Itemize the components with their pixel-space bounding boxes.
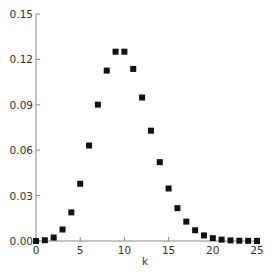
data-point xyxy=(121,49,127,55)
data-point xyxy=(60,226,66,232)
data-point xyxy=(236,238,242,244)
y-tick-label: 0.12 xyxy=(10,53,33,65)
data-point xyxy=(51,235,57,241)
data-point xyxy=(166,185,172,191)
data-point xyxy=(104,68,110,74)
data-point xyxy=(42,237,48,243)
x-tick-label: 15 xyxy=(162,244,175,256)
data-point xyxy=(130,66,136,72)
data-point xyxy=(192,227,198,233)
data-point xyxy=(174,205,180,211)
y-axis-ticks: 0.000.030.060.090.120.15 xyxy=(10,8,40,247)
data-point xyxy=(68,209,74,215)
y-tick-label: 0.09 xyxy=(10,99,33,111)
data-points xyxy=(33,49,260,244)
data-point xyxy=(245,238,251,244)
data-point xyxy=(210,235,216,241)
y-tick-label: 0.06 xyxy=(10,144,34,156)
axes xyxy=(36,14,260,241)
x-tick-label: 10 xyxy=(118,244,131,256)
data-point xyxy=(113,49,119,55)
data-point xyxy=(86,143,92,149)
x-tick-label: 5 xyxy=(77,244,84,256)
poisson-scatter-chart: 0.000.030.060.090.120.15 0510152025 k xyxy=(0,0,272,275)
y-tick-label: 0.00 xyxy=(10,235,33,247)
data-point xyxy=(201,232,207,238)
data-point xyxy=(183,219,189,225)
data-point xyxy=(157,159,163,165)
y-tick-label: 0.03 xyxy=(10,190,33,202)
x-tick-label: 0 xyxy=(33,244,40,256)
data-point xyxy=(227,237,233,243)
data-point xyxy=(254,238,260,244)
x-tick-label: 25 xyxy=(250,244,263,256)
data-point xyxy=(95,102,101,108)
data-point xyxy=(77,181,83,187)
x-tick-label: 20 xyxy=(206,244,219,256)
data-point xyxy=(219,237,225,243)
y-tick-label: 0.15 xyxy=(10,8,33,20)
data-point xyxy=(148,128,154,134)
data-point xyxy=(33,238,39,244)
data-point xyxy=(139,95,145,101)
x-axis-label: k xyxy=(142,255,149,267)
